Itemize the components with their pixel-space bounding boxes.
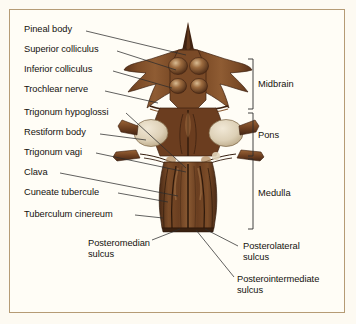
label-trigonum-hypoglossi: Trigonum hypoglossi [24, 107, 108, 118]
label-tuberculum-cinereum: Tuberculum cinereum [24, 209, 113, 220]
label-posterolateral-sulcus: Posterolateral sulcus [243, 241, 338, 262]
label-pons: Pons [258, 130, 279, 140]
label-posterointermediate-sulcus: Posterointermediate sulcus [237, 274, 345, 295]
label-superior-colliculus: Superior colliculus [24, 44, 99, 55]
figure-border [9, 9, 345, 313]
posteromedian-line2: sulcus [88, 249, 114, 259]
label-trochlear-nerve: Trochlear nerve [24, 84, 88, 95]
label-restiform-body: Restiform body [24, 127, 86, 138]
label-medulla: Medulla [258, 188, 291, 198]
label-inferior-colliculus: Inferior colliculus [24, 64, 92, 75]
posterolateral-line1: Posterolateral [243, 241, 300, 251]
label-clava: Clava [24, 167, 48, 178]
label-pineal-body: Pineal body [24, 24, 72, 35]
posterolateral-line2: sulcus [243, 252, 269, 262]
posterointermediate-line2: sulcus [237, 285, 263, 295]
posteromedian-line1: Posteromedian [88, 238, 150, 248]
label-cuneate-tubercule: Cuneate tubercule [24, 187, 99, 198]
label-posteromedian-sulcus: Posteromedian sulcus [88, 238, 183, 259]
anatomy-figure: Pineal body Superior colliculus Inferior… [0, 0, 356, 324]
label-midbrain: Midbrain [258, 79, 294, 89]
label-trigonum-vagi: Trigonum vagi [24, 147, 82, 158]
posterointermediate-line1: Posterointermediate [237, 274, 319, 284]
